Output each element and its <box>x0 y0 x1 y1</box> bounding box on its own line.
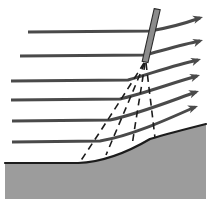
flow-schematic-diagram <box>0 0 211 204</box>
figure-container <box>0 0 211 204</box>
